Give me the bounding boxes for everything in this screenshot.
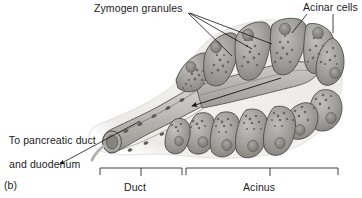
label-duct: Duct bbox=[124, 181, 146, 193]
panel-label: (b) bbox=[4, 179, 17, 191]
bracket-acinus bbox=[186, 168, 338, 176]
label-to-pancreatic-duct-line1: To pancreatic duct bbox=[9, 134, 96, 146]
label-to-pancreatic-duct-line2: and duodenum bbox=[9, 158, 80, 170]
label-acinus: Acinus bbox=[243, 181, 275, 193]
label-to-pancreatic-duct: To pancreatic duct and duodenum bbox=[3, 122, 96, 170]
label-acinar-cells: Acinar cells bbox=[303, 1, 358, 13]
bracket-duct bbox=[100, 168, 182, 176]
label-zymogen-granules: Zymogen granules bbox=[94, 2, 183, 14]
